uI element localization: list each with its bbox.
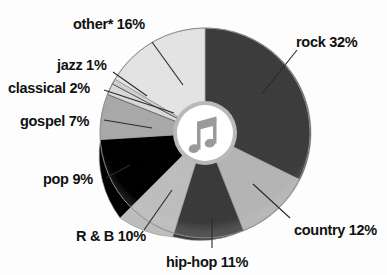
pie-label-rock: rock 32% [296,34,358,50]
pie-chart-figure: other* 16% jazz 1% classical 2% gospel 7… [0,0,387,275]
pie-label-pop: pop 9% [43,171,93,187]
pie-label-country: country 12% [294,222,377,238]
pie-label-r-and-b: R & B 10% [76,228,146,244]
pie-label-jazz: jazz 1% [56,57,107,73]
pie-label-classical: classical 2% [8,80,90,96]
pie-center-hub [173,101,237,165]
pie-chart-svg: other* 16% jazz 1% classical 2% gospel 7… [0,0,387,275]
pie-label-other: other* 16% [73,16,145,32]
pie-label-gospel: gospel 7% [20,113,89,129]
pie-label-hip-hop: hip-hop 11% [166,254,249,270]
hub-inner-disc [177,105,233,161]
